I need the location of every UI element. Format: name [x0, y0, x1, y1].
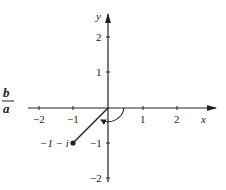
x-tick-label: 2	[174, 113, 180, 125]
fraction-numerator: b	[3, 85, 10, 100]
y-tick-label: 2	[96, 31, 102, 43]
x-axis-label: x	[200, 113, 206, 125]
y-tick-label: −2	[90, 172, 102, 184]
fraction: b a	[2, 85, 14, 116]
fraction-denominator: a	[3, 101, 10, 116]
y-tick-label: 1	[96, 66, 102, 78]
x-tick-label: −1	[67, 113, 79, 125]
y-axis-label: y	[95, 10, 101, 22]
x-tick-label: 1	[140, 113, 146, 125]
complex-plane-diagram: −2 −1 1 2 2 1 −1 −2 x y −1 − i b a	[0, 0, 226, 190]
x-tick-label: −2	[33, 113, 45, 125]
point-marker	[70, 140, 75, 145]
y-tick-label: −1	[90, 137, 102, 149]
angle-arc	[101, 108, 124, 122]
point-label: −1 − i	[40, 137, 69, 149]
